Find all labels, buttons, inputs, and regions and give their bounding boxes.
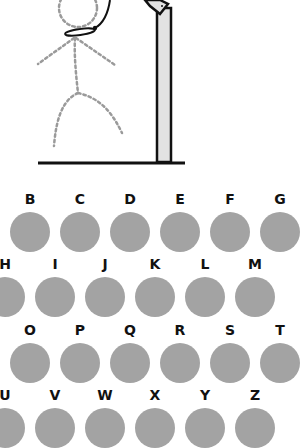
letter-label: J (85, 257, 125, 271)
letter-label: E (160, 192, 200, 206)
letter-key-l[interactable]: L (185, 257, 225, 313)
letter-key-p[interactable]: P (60, 323, 100, 379)
figure-body (75, 38, 78, 93)
letter-label: Y (185, 388, 225, 402)
letter-button[interactable] (35, 277, 75, 317)
letter-button[interactable] (260, 212, 300, 252)
letter-label: S (210, 323, 250, 337)
letter-label: R (160, 323, 200, 337)
letter-button[interactable] (0, 277, 25, 317)
letter-label: X (135, 388, 175, 402)
letter-button[interactable] (110, 343, 150, 383)
letter-key-z[interactable]: Z (235, 388, 275, 444)
letter-label: D (110, 192, 150, 206)
letter-key-r[interactable]: R (160, 323, 200, 379)
letter-key-m[interactable]: M (235, 257, 275, 313)
figure-left-leg (54, 93, 78, 146)
letter-label: G (260, 192, 300, 206)
letter-button[interactable] (60, 343, 100, 383)
letter-button[interactable] (135, 408, 175, 448)
letter-button[interactable] (85, 277, 125, 317)
letter-button[interactable] (160, 212, 200, 252)
letter-label: W (85, 388, 125, 402)
letter-label: U (0, 388, 25, 402)
letter-label: Z (235, 388, 275, 402)
letter-button[interactable] (135, 277, 175, 317)
letter-label: Q (110, 323, 150, 337)
letter-label: O (10, 323, 50, 337)
letter-label: K (135, 257, 175, 271)
letter-key-t[interactable]: T (260, 323, 300, 379)
letter-button[interactable] (35, 408, 75, 448)
letter-key-w[interactable]: W (85, 388, 125, 444)
letter-button[interactable] (235, 277, 275, 317)
letter-key-j[interactable]: J (85, 257, 125, 313)
letter-key-f[interactable]: F (210, 192, 250, 248)
letter-label: M (235, 257, 275, 271)
letter-button[interactable] (0, 408, 25, 448)
letter-button[interactable] (185, 408, 225, 448)
letter-button[interactable] (10, 212, 50, 252)
letter-key-x[interactable]: X (135, 388, 175, 444)
letter-button[interactable] (110, 212, 150, 252)
letter-key-v[interactable]: V (35, 388, 75, 444)
letter-label: L (185, 257, 225, 271)
letter-key-e[interactable]: E (160, 192, 200, 248)
letter-button[interactable] (10, 343, 50, 383)
figure-head (59, 0, 97, 27)
letter-button[interactable] (210, 343, 250, 383)
letter-button[interactable] (85, 408, 125, 448)
letter-key-h[interactable]: H (0, 257, 25, 313)
letter-key-b[interactable]: B (10, 192, 50, 248)
letter-label: V (35, 388, 75, 402)
letter-key-o[interactable]: O (10, 323, 50, 379)
letter-label: P (60, 323, 100, 337)
letter-label: I (35, 257, 75, 271)
figure-right-arm (76, 38, 115, 65)
letter-key-y[interactable]: Y (185, 388, 225, 444)
letter-key-u[interactable]: U (0, 388, 25, 444)
letter-label: H (0, 257, 25, 271)
letter-button[interactable] (185, 277, 225, 317)
letter-label: F (210, 192, 250, 206)
letter-key-i[interactable]: I (35, 257, 75, 313)
letter-key-s[interactable]: S (210, 323, 250, 379)
figure-left-arm (38, 38, 74, 64)
letter-key-c[interactable]: C (60, 192, 100, 248)
letter-button[interactable] (160, 343, 200, 383)
letter-label: T (260, 323, 300, 337)
gallows-pole (157, 8, 171, 162)
letter-button[interactable] (260, 343, 300, 383)
noose (65, 27, 96, 37)
letter-key-k[interactable]: K (135, 257, 175, 313)
letter-button[interactable] (235, 408, 275, 448)
letter-key-q[interactable]: Q (110, 323, 150, 379)
letter-key-g[interactable]: G (260, 192, 300, 248)
letter-key-d[interactable]: D (110, 192, 150, 248)
letter-button[interactable] (60, 212, 100, 252)
letter-label: C (60, 192, 100, 206)
letter-label: B (10, 192, 50, 206)
letter-button[interactable] (210, 212, 250, 252)
figure-right-leg (78, 93, 122, 133)
hangman-drawing (0, 0, 306, 180)
